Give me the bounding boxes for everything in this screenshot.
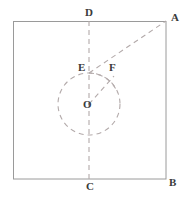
vertex-label-f: F: [109, 62, 116, 73]
figure-canvas: [0, 0, 188, 202]
geometry-figure: A B C D E F O: [0, 0, 188, 202]
vertex-label-b: B: [169, 177, 176, 188]
vertex-label-a: A: [171, 12, 179, 23]
arc-ef: [89, 73, 117, 92]
vertex-label-d: D: [85, 7, 93, 18]
vertex-label-e: E: [78, 62, 85, 73]
diagonal-ea-line: [89, 21, 166, 73]
vertex-label-o: O: [83, 99, 92, 110]
radius-of-line: [89, 76, 114, 104]
vertex-label-c: C: [86, 181, 94, 192]
